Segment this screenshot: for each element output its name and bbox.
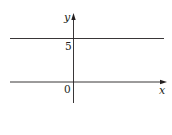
y-tick-label-5: 5 (65, 40, 72, 52)
x-axis-label: x (159, 84, 166, 97)
y-axis-arrow-icon (71, 13, 75, 20)
y-axis-label: y (63, 11, 71, 24)
origin-label: 0 (64, 83, 71, 95)
graph-figure: y 5 0 x (0, 0, 172, 135)
